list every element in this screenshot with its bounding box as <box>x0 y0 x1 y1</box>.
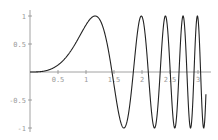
x-axis: 0.511.522.53 <box>30 70 211 84</box>
x-tick-label: 1 <box>84 76 88 84</box>
x-tick-label: 3 <box>196 76 200 84</box>
y-axis: 10.5-0.5-1 <box>9 10 32 133</box>
x-tick-label: 2 <box>140 76 144 84</box>
line-chart: 10.5-0.5-1 0.511.522.53 <box>0 0 218 140</box>
x-tick-label: 0.5 <box>52 76 65 84</box>
y-tick-label: 1 <box>22 13 26 21</box>
y-tick-label: -0.5 <box>9 97 26 105</box>
y-tick: -0.5 <box>9 97 32 105</box>
y-tick: 1 <box>22 13 32 21</box>
y-tick-label: 0.5 <box>13 41 26 49</box>
y-ticks: 10.5-0.5-1 <box>9 13 32 133</box>
y-tick-label: -1 <box>18 125 26 133</box>
y-tick: 0.5 <box>13 41 32 49</box>
